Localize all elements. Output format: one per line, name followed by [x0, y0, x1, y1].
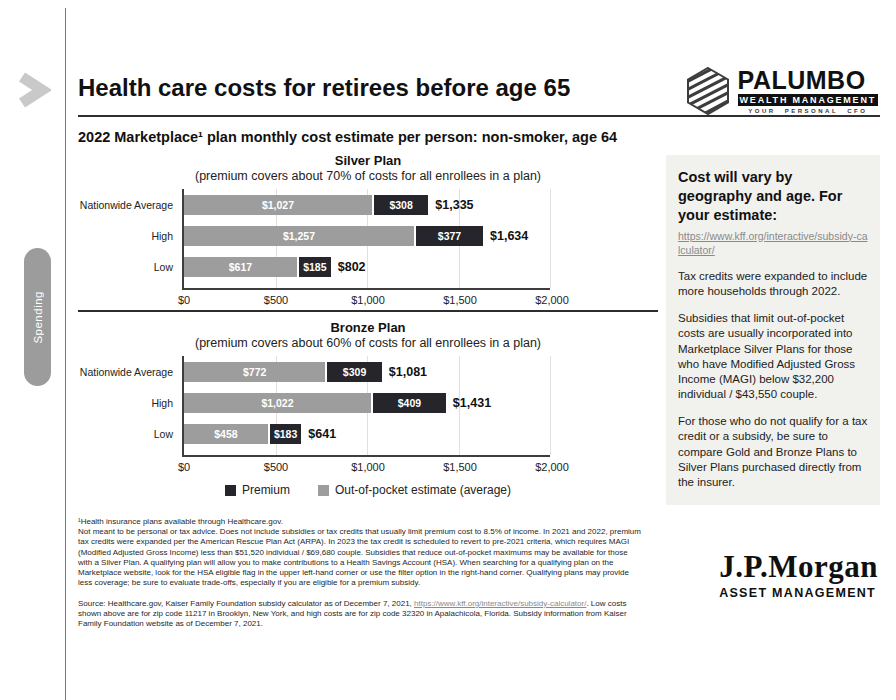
bar-segment: $409	[371, 393, 446, 413]
bar-row: $1,027$308$1,335	[184, 195, 550, 215]
slide-content: Health care costs for retirees before ag…	[66, 0, 896, 700]
bar-segment: $185	[297, 257, 331, 277]
footnotes: ¹Health insurance plans available throug…	[78, 517, 644, 589]
bar-segment: $377	[414, 226, 483, 246]
legend-label: Premium	[242, 483, 290, 497]
category-label: Nationwide Average	[78, 362, 182, 382]
chart-divider	[78, 310, 658, 312]
bar-total-label: $802	[338, 257, 366, 277]
source-prefix: Source: Healthcare.gov, Kaiser Family Fo…	[78, 599, 414, 608]
category-labels: Nationwide AverageHighLow	[78, 356, 182, 457]
x-tick-label: $1,000	[351, 294, 385, 306]
bar-segment: $183	[268, 424, 301, 444]
chart-section-subtitle: 2022 Marketplace¹ plan monthly cost esti…	[78, 129, 880, 145]
bar-segment: $1,257	[184, 226, 414, 246]
legend-swatch	[318, 485, 329, 496]
bar-row: $772$309$1,081	[184, 362, 550, 382]
chart-legend: PremiumOut-of-pocket estimate (average)	[78, 483, 658, 497]
palumbo-logo: PALUMBO WEALTH MANAGEMENT YOUR PERSONAL …	[685, 66, 878, 116]
chart-subtitle: (premium covers about 70% of costs for a…	[78, 169, 658, 183]
palumbo-hexagon-icon	[685, 66, 731, 116]
main-area: Silver Plan (premium covers about 70% of…	[78, 153, 880, 630]
bar-segment: $308	[372, 195, 428, 215]
legend-item: Out-of-pocket estimate (average)	[318, 483, 511, 497]
gridline	[550, 189, 551, 288]
chart-subtitle: (premium covers about 60% of costs for a…	[78, 336, 658, 350]
x-axis-labels: $0$500$1,000$1,500$2,000	[184, 290, 552, 306]
x-tick-label: $0	[178, 294, 190, 306]
bar-total-label: $1,081	[389, 362, 427, 382]
palumbo-wordmark: PALUMBO WEALTH MANAGEMENT YOUR PERSONAL …	[738, 68, 878, 114]
bar-row: $617$185$802	[184, 257, 550, 277]
source-note: Source: Healthcare.gov, Kaiser Family Fo…	[78, 599, 644, 630]
x-tick-label: $2,000	[535, 294, 569, 306]
gridline	[550, 356, 551, 455]
kff-subsidy-calculator-link[interactable]: https://www.kff.org/interactive/subsidy-…	[678, 229, 868, 257]
silver-plan-chart: Silver Plan (premium covers about 70% of…	[78, 153, 658, 306]
plot-wrap: Nationwide AverageHighLow $1,027$308$1,3…	[78, 189, 658, 290]
category-label: Low	[78, 424, 182, 444]
bar-total-label: $641	[308, 424, 336, 444]
bar-segment: $458	[184, 424, 268, 444]
x-tick-label: $1,000	[351, 461, 385, 473]
bar-row: $1,257$377$1,634	[184, 226, 550, 246]
plot-wrap: Nationwide AverageHighLow $772$309$1,081…	[78, 356, 658, 457]
plot-area: $772$309$1,081$1,022$409$1,431$458$183$6…	[182, 356, 550, 457]
x-tick-label: $500	[264, 294, 288, 306]
x-tick-label: $2,000	[535, 461, 569, 473]
category-label: Nationwide Average	[78, 195, 182, 215]
jpmorgan-wordmark: J.P.Morgan	[719, 549, 878, 585]
jpmorgan-logo: J.P.Morgan ASSET MANAGEMENT	[719, 549, 878, 600]
sidebar-paragraph-compare-plans: For those who do not qualify for a tax c…	[678, 414, 868, 490]
sidebar-callout: Cost will vary by geography and age. For…	[666, 155, 880, 505]
bronze-plan-chart: Bronze Plan (premium covers about 60% of…	[78, 320, 658, 473]
kff-source-link[interactable]: https://www.kff.org/interactive/subsidy-…	[414, 599, 586, 608]
chevron-right-icon	[15, 72, 51, 108]
header: Health care costs for retirees before ag…	[78, 0, 880, 117]
palumbo-name: PALUMBO	[738, 68, 878, 93]
right-column: Cost will vary by geography and age. For…	[666, 153, 880, 630]
jpmorgan-division: ASSET MANAGEMENT	[719, 586, 878, 600]
bar-segment: $1,022	[184, 393, 371, 413]
bar-segment: $309	[325, 362, 382, 382]
bar-row: $458$183$641	[184, 424, 550, 444]
category-label: High	[78, 226, 182, 246]
category-label: High	[78, 393, 182, 413]
sidebar-paragraph-tax-credits: Tax credits were expanded to include mor…	[678, 269, 868, 299]
x-tick-label: $500	[264, 461, 288, 473]
plot-area: $1,027$308$1,335$1,257$377$1,634$617$185…	[182, 189, 550, 290]
bar-row: $1,022$409$1,431	[184, 393, 550, 413]
bar-total-label: $1,634	[490, 226, 528, 246]
x-tick-label: $1,500	[443, 461, 477, 473]
sidebar-heading: Cost will vary by geography and age. For…	[678, 168, 868, 225]
bar-segment: $1,027	[184, 195, 372, 215]
x-tick-label: $0	[178, 461, 190, 473]
spending-section-tab[interactable]: Spending	[24, 248, 51, 386]
legend-swatch	[225, 485, 236, 496]
legend-label: Out-of-pocket estimate (average)	[335, 483, 511, 497]
x-tick-label: $1,500	[443, 294, 477, 306]
category-labels: Nationwide AverageHighLow	[78, 189, 182, 290]
footnote-body: Not meant to be personal or tax advice. …	[78, 527, 644, 588]
bar-segment: $772	[184, 362, 325, 382]
bar-segment: $617	[184, 257, 297, 277]
palumbo-wealth-management-bar: WEALTH MANAGEMENT	[738, 94, 878, 106]
category-label: Low	[78, 257, 182, 277]
sidebar-paragraph-subsidies: Subsidies that limit out-of-pocket costs…	[678, 311, 868, 402]
x-axis-labels: $0$500$1,000$1,500$2,000	[184, 457, 552, 473]
chart-title: Silver Plan	[78, 153, 658, 168]
legend-item: Premium	[225, 483, 290, 497]
next-chevron-icon[interactable]	[15, 72, 51, 112]
chart-title: Bronze Plan	[78, 320, 658, 335]
palumbo-tagline: YOUR PERSONAL CFO	[738, 108, 878, 114]
bar-total-label: $1,335	[435, 195, 473, 215]
footnote-1: ¹Health insurance plans available throug…	[78, 517, 644, 527]
bar-total-label: $1,431	[453, 393, 491, 413]
spending-tab-label: Spending	[32, 291, 44, 344]
charts-column: Silver Plan (premium covers about 70% of…	[78, 153, 658, 630]
